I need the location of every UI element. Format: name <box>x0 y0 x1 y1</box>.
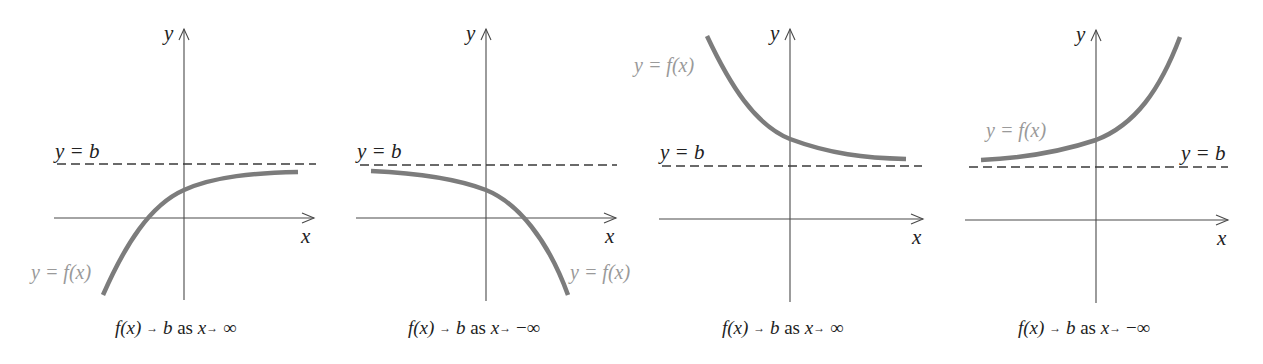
x-axis-label: x <box>300 224 311 248</box>
caption: f(x) → b as x→ ∞ <box>115 315 236 339</box>
function-curve <box>707 36 906 159</box>
x-axis-label: x <box>911 225 922 249</box>
panel-1: y x y = b y = f(x) f(x) → b as x→ ∞ <box>29 21 316 339</box>
caption: f(x) → b as x→ −∞ <box>1018 315 1150 339</box>
asymptote-label: y = b <box>355 139 402 163</box>
y-axis-label: y <box>162 21 174 45</box>
x-axis-label: x <box>1216 226 1227 250</box>
asymptote-label: y = b <box>53 139 100 163</box>
function-curve <box>103 172 298 295</box>
y-axis-label: y <box>768 21 780 45</box>
caption: f(x) → b as x→ −∞ <box>408 315 540 339</box>
caption: f(x) → b as x→ ∞ <box>722 315 843 339</box>
panel-3: y x y = b y = f(x) f(x) → b as x→ ∞ <box>632 21 923 339</box>
curve-label: y = f(x) <box>632 54 694 77</box>
function-curve <box>371 171 568 295</box>
asymptote-label: y = b <box>658 140 705 164</box>
curve-label: y = f(x) <box>29 261 91 284</box>
asymptote-label: y = b <box>1179 141 1226 165</box>
x-axis-label: x <box>604 224 615 248</box>
curve-label: y = f(x) <box>568 261 630 284</box>
asymptote-diagram: y x y = b y = f(x) f(x) → b as x→ ∞ y x … <box>0 0 1263 364</box>
y-axis-label: y <box>464 21 476 45</box>
panel-4: y x y = b y = f(x) f(x) → b as x→ −∞ <box>965 22 1228 339</box>
panel-2: y x y = b y = f(x) f(x) → b as x→ −∞ <box>355 21 630 339</box>
function-curve <box>981 37 1180 160</box>
curve-label: y = f(x) <box>984 119 1046 142</box>
y-axis-label: y <box>1074 22 1086 46</box>
